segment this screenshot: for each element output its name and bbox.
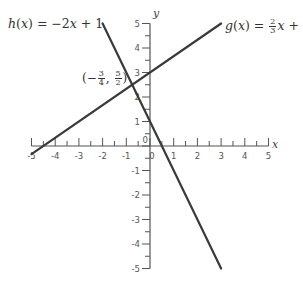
h-equation-label: h(x) = −2x + 1	[8, 16, 103, 31]
h-rest: + 1	[77, 16, 103, 31]
y-tick-label: -5	[132, 264, 140, 274]
y-tick-label: 4	[135, 43, 140, 53]
y-tick-label: 1	[135, 117, 140, 127]
x-tick-label: -3	[75, 151, 83, 161]
intersection-label: (−34, 52)	[82, 70, 127, 87]
g-equation-label: g(x) = 23x + 3	[225, 18, 303, 35]
intersection-close: )	[123, 71, 128, 85]
y-tick-label: -1	[132, 166, 140, 176]
intersection-sep: ,	[106, 71, 110, 85]
h-var: x	[21, 16, 28, 31]
x-axis-label: x	[272, 138, 279, 151]
x-tick-label: 4	[242, 151, 247, 161]
x-tick-label: 2	[195, 151, 200, 161]
ticks	[32, 24, 269, 269]
y-axis-label: y	[152, 7, 160, 20]
graph-plot: -5-4-3-2-10123450-5-4-3-2-112345 x y	[0, 0, 303, 282]
h-fn-name: h	[8, 16, 16, 31]
y-tick-label: -2	[132, 190, 140, 200]
intersection-x-fraction: 34	[98, 70, 105, 87]
y-tick-label: 3	[135, 68, 140, 78]
g-slope-fraction: 23	[269, 18, 276, 35]
g-fn-name: g	[225, 18, 233, 33]
intersection-y-fraction: 52	[115, 70, 122, 87]
h-var-x: x	[70, 16, 77, 31]
x-tick-label: 3	[218, 151, 223, 161]
y-tick-label: -3	[132, 215, 140, 225]
x-tick-label: -1	[122, 151, 130, 161]
g-var: x	[238, 18, 245, 33]
x-tick-label: -4	[51, 151, 59, 161]
h-rhs: = −2	[37, 16, 70, 31]
x-tick-label: -2	[98, 151, 106, 161]
intersection-open: (−	[82, 71, 97, 85]
g-function-line	[32, 24, 222, 155]
x-tick-label: 5	[266, 151, 271, 161]
y-tick-label: 5	[135, 19, 140, 29]
g-rest: + 3	[284, 18, 303, 33]
x-tick-label: 1	[171, 151, 176, 161]
origin-label: 0	[143, 135, 148, 145]
y-tick-label: -4	[132, 239, 140, 249]
x-tick-label: 0	[149, 151, 154, 161]
